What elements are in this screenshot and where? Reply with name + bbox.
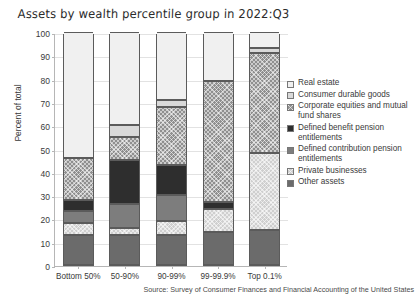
y-tick-label: 90 [41, 53, 50, 62]
bar-segment[interactable] [157, 100, 186, 107]
x-tick-mark [78, 266, 79, 269]
bar-segment[interactable] [157, 165, 186, 195]
bar-segment[interactable] [250, 53, 279, 153]
bar-4[interactable] [203, 34, 234, 266]
x-tick-label: Top 0.1% [248, 272, 282, 281]
bar-segment[interactable] [64, 211, 93, 223]
y-tick-mark [52, 127, 55, 128]
bar-segment[interactable] [204, 32, 233, 81]
y-tick-label: 0 [45, 263, 50, 272]
y-tick-mark [52, 57, 55, 58]
legend-swatch-icon [287, 92, 294, 99]
y-tick-mark [52, 104, 55, 105]
bar-segment[interactable] [64, 158, 93, 200]
bar-segment[interactable] [64, 235, 93, 265]
legend-swatch-icon [287, 147, 294, 154]
bar-1[interactable] [63, 34, 94, 266]
bar-segment[interactable] [110, 125, 139, 137]
bar-segment[interactable] [64, 223, 93, 235]
x-tick-mark [125, 266, 126, 269]
x-tick-label: 99-99.9% [201, 272, 236, 281]
bar-segment[interactable] [110, 235, 139, 265]
y-tick-label: 20 [41, 216, 50, 225]
legend-swatch-icon [287, 168, 294, 175]
y-tick-mark [52, 197, 55, 198]
legend-swatch-icon [287, 81, 294, 88]
y-tick-label: 60 [41, 123, 50, 132]
bar-segment[interactable] [157, 221, 186, 235]
x-tick-label: Bottom 50% [56, 272, 101, 281]
y-tick-mark [52, 244, 55, 245]
legend-item-label: Corporate equities and mutual fund share… [298, 101, 420, 121]
bar-segment[interactable] [157, 235, 186, 265]
y-tick-mark [52, 34, 55, 35]
bar-segment[interactable] [110, 228, 139, 235]
y-tick-mark [52, 81, 55, 82]
y-tick-label: 40 [41, 170, 50, 179]
y-tick-label: 30 [41, 193, 50, 202]
y-tick-label: 10 [41, 239, 50, 248]
bar-segment[interactable] [157, 195, 186, 221]
x-tick-mark [172, 266, 173, 269]
legend-item-label: Private businesses [298, 166, 367, 176]
legend-item[interactable]: Real estate [287, 78, 420, 88]
bar-segment[interactable] [110, 137, 139, 160]
legend-item-label: Real estate [298, 78, 339, 88]
y-tick-mark [52, 174, 55, 175]
legend-item[interactable]: Private businesses [287, 166, 420, 176]
y-axis-label: Percent of total [13, 43, 23, 183]
bar-5[interactable] [249, 34, 280, 266]
bar-segment[interactable] [64, 32, 93, 158]
legend-item[interactable]: Other assets [287, 177, 420, 187]
chart-legend: Real estateConsumer durable goodsCorpora… [287, 78, 420, 189]
x-tick-mark [218, 266, 219, 269]
y-tick-mark [52, 267, 55, 268]
bar-segment[interactable] [157, 32, 186, 100]
chart-figure: Assets by wealth percentile group in 202… [0, 0, 420, 307]
bar-2[interactable] [109, 34, 140, 266]
bar-segment[interactable] [157, 107, 186, 165]
bar-segment[interactable] [250, 153, 279, 230]
bar-segment[interactable] [64, 200, 93, 212]
bar-segment[interactable] [204, 232, 233, 265]
y-tick-label: 70 [41, 100, 50, 109]
legend-item-label: Other assets [298, 177, 344, 187]
x-tick-label: 50-90% [111, 272, 139, 281]
bar-3[interactable] [156, 34, 187, 266]
x-tick-label: 90-99% [157, 272, 185, 281]
bar-segment[interactable] [110, 204, 139, 227]
bar-segment[interactable] [250, 48, 279, 53]
x-tick-mark [265, 266, 266, 269]
legend-swatch-icon [287, 104, 294, 111]
y-tick-label: 50 [41, 146, 50, 155]
legend-item-label: Consumer durable goods [298, 90, 390, 100]
legend-item-label: Defined benefit pension entitlements [298, 123, 420, 143]
bar-segment[interactable] [110, 32, 139, 125]
legend-item-label: Defined contribution pension entitlement… [298, 144, 420, 164]
legend-item[interactable]: Corporate equities and mutual fund share… [287, 101, 420, 121]
plot-area: 0102030405060708090100Bottom 50%50-90%90… [54, 34, 287, 267]
y-tick-mark [52, 151, 55, 152]
legend-item[interactable]: Defined contribution pension entitlement… [287, 144, 420, 164]
legend-swatch-icon [287, 180, 294, 187]
legend-swatch-icon [287, 125, 294, 132]
source-note: Source: Survey of Consumer Finances and … [144, 285, 414, 294]
y-tick-mark [52, 220, 55, 221]
bar-segment[interactable] [110, 160, 139, 204]
chart-title: Assets by wealth percentile group in 202… [17, 6, 289, 21]
bar-segment[interactable] [250, 230, 279, 265]
legend-item[interactable]: Defined benefit pension entitlements [287, 123, 420, 143]
bar-segment[interactable] [204, 81, 233, 202]
y-tick-label: 80 [41, 76, 50, 85]
bar-segment[interactable] [204, 209, 233, 232]
bar-segment[interactable] [250, 32, 279, 48]
legend-item[interactable]: Consumer durable goods [287, 90, 420, 100]
y-tick-label: 100 [36, 30, 50, 39]
bar-segment[interactable] [204, 202, 233, 209]
